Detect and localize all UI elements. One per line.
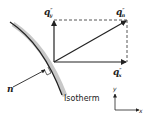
qy-label: q″y	[44, 7, 54, 19]
axis-x-label: x	[138, 107, 143, 114]
heat-flux-diagram: q″y q″n q″x n Isotherm y x	[0, 0, 143, 120]
axis-y-label: y	[112, 85, 117, 93]
normal-label: n	[7, 84, 14, 94]
normal-vector-arrow	[13, 70, 45, 87]
qn-label: q″n	[116, 7, 126, 18]
qn-vector-arrow	[54, 21, 126, 62]
isotherm-label: Isotherm	[64, 94, 100, 103]
qx-label: q″x	[113, 67, 123, 78]
